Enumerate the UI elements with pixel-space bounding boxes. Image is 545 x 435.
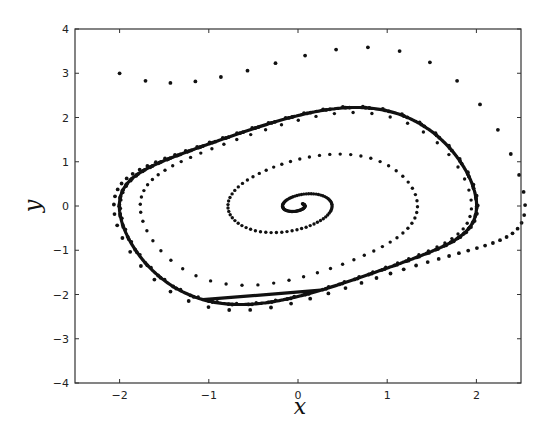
outer-trajectory-dot [248, 308, 252, 312]
inner-trajectory-dot [130, 240, 133, 243]
inner-trajectory-dot [413, 216, 416, 219]
outer-trajectory-dot [483, 244, 487, 248]
inner-trajectory-dot [215, 300, 218, 303]
inner-trajectory-dot [415, 199, 418, 202]
inner-trajectory-dot [343, 280, 346, 283]
inner-trajectory-dot [224, 282, 227, 285]
outer-trajectory-dot [309, 111, 313, 115]
outer-trajectory-dot [509, 152, 513, 156]
outer-trajectory-dot [398, 49, 402, 53]
outer-trajectory-dot [125, 177, 129, 181]
outer-trajectory-dot [364, 106, 368, 110]
inner-trajectory-dot [149, 166, 152, 169]
outer-trajectory-dot [422, 125, 426, 129]
outer-trajectory-dot [387, 109, 391, 113]
inner-trajectory-dot [363, 254, 366, 257]
inner-trajectory-dot [231, 216, 234, 219]
inner-trajectory-dot [407, 257, 410, 260]
inner-trajectory-dot [141, 170, 144, 173]
inner-trajectory-dot [157, 162, 160, 165]
inner-trajectory-dot [333, 112, 336, 115]
outer-trajectory-dot [496, 128, 500, 132]
inner-trajectory-dot [395, 169, 398, 172]
inner-trajectory-dot [249, 228, 252, 231]
inner-trajectory-dot [237, 222, 240, 225]
inner-trajectory-dot [119, 198, 122, 201]
outer-trajectory-dot [274, 61, 278, 65]
inner-trajectory-dot [255, 301, 258, 304]
outer-trajectory-dot [491, 241, 495, 245]
y-axis-label: y [20, 199, 45, 213]
x-tick-label: −1 [201, 389, 217, 402]
outer-trajectory-dot [219, 75, 223, 79]
inner-trajectory-dot [171, 164, 174, 167]
inner-trajectory-dot [244, 226, 247, 229]
inner-trajectory-dot [230, 192, 233, 195]
limit-cycle-line [119, 108, 476, 305]
outer-trajectory-dot [303, 54, 307, 58]
inner-trajectory-dot [319, 219, 322, 222]
inner-trajectory-dot [406, 122, 409, 125]
inner-trajectory-dot [269, 231, 272, 234]
inner-trajectory-dot [189, 156, 192, 159]
inner-trajectory-dot [395, 236, 398, 239]
outer-trajectory-dot [250, 302, 254, 306]
inner-trajectory-dot [258, 172, 261, 175]
plot-area [112, 45, 527, 312]
y-tick-label: −3 [53, 333, 69, 346]
inner-trajectory-dot [308, 155, 311, 158]
y-tick-label: −4 [53, 377, 69, 390]
outer-trajectory-dot [475, 206, 479, 210]
inner-trajectory-dot [226, 203, 229, 206]
outer-trajectory-dot [367, 106, 371, 110]
outer-trajectory-dot [472, 186, 476, 190]
inner-trajectory-dot [370, 112, 373, 115]
inner-trajectory-dot [237, 185, 240, 188]
inner-trajectory-dot [149, 266, 152, 269]
inner-trajectory-dot [159, 249, 162, 252]
outer-trajectory-dot [112, 203, 116, 207]
outer-trajectory-dot [344, 106, 348, 110]
outer-trajectory-dot [118, 71, 122, 75]
inner-trajectory-dot [396, 261, 399, 264]
inner-trajectory-dot [443, 241, 446, 244]
outer-trajectory-dot [437, 257, 441, 261]
x-tick-label: 1 [384, 389, 391, 402]
inner-trajectory-dot [272, 165, 275, 168]
inner-trajectory-dot [163, 169, 166, 172]
x-tick-label: 2 [473, 389, 480, 402]
inner-trajectory-dot [310, 290, 313, 293]
outer-trajectory-dot [119, 195, 123, 199]
inner-trajectory-dot [316, 271, 319, 274]
outer-trajectory-dot [246, 69, 250, 73]
outer-trajectory-dot [321, 288, 325, 292]
inner-trajectory-dot [318, 154, 321, 157]
inner-trajectory-dot [435, 245, 438, 248]
inner-trajectory-dot [466, 222, 469, 225]
inner-trajectory-dot [264, 231, 267, 234]
outer-trajectory-dot [230, 303, 234, 307]
inner-trajectory-dot [300, 227, 303, 230]
inner-trajectory-dot [436, 141, 439, 144]
inner-trajectory-dot [292, 295, 295, 298]
inner-trajectory-dot [265, 169, 268, 172]
inner-trajectory-dot [312, 222, 315, 225]
outer-trajectory-dot [402, 114, 406, 118]
inner-trajectory-dot [119, 207, 122, 210]
inner-trajectory-dot [272, 281, 275, 284]
outer-trajectory-dot [428, 60, 432, 64]
outer-trajectory-dot [360, 281, 364, 285]
outer-trajectory-dot [121, 236, 125, 240]
inner-trajectory-dot [316, 221, 319, 224]
outer-trajectory-dot [143, 261, 147, 265]
inner-trajectory-dot [256, 283, 259, 286]
y-tick-label: 4 [62, 23, 69, 36]
inner-trajectory-dot [369, 157, 372, 160]
outer-trajectory-dot [266, 301, 270, 305]
inner-trajectory-dot [407, 180, 410, 183]
outer-trajectory-dot [516, 227, 520, 231]
inner-trajectory-dot [241, 182, 244, 185]
outer-trajectory-dot [467, 175, 471, 179]
outer-trajectory-dot [393, 264, 397, 268]
inner-trajectory-dot [246, 178, 249, 181]
